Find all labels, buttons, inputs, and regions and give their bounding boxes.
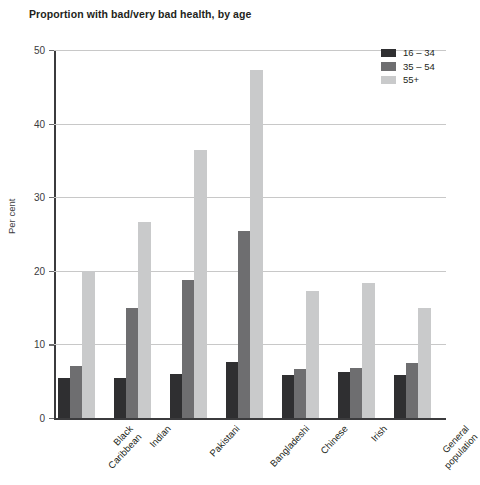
bar [306,291,318,418]
bar-group [278,50,334,418]
plot-area: 01020304050 [54,50,446,418]
y-axis-title: Per cent [6,199,17,234]
legend-item[interactable]: 35 – 54 [381,60,435,74]
y-tick-label: 20 [34,265,45,276]
bar [126,308,138,418]
bar-group [110,50,166,418]
legend-label: 35 – 54 [403,61,435,72]
bar [226,362,238,418]
legend-label: 16 – 34 [403,47,435,58]
legend-swatch-icon [381,76,396,85]
category-label: Pakistani [208,423,243,459]
bar [394,375,406,418]
category-label: Black Caribbean [97,423,144,471]
chart-legend: 16 – 3435 – 5455+ [381,46,435,87]
x-axis-line [54,418,446,420]
bar [406,363,418,418]
y-tick-label: 10 [34,339,45,350]
y-tick-label: 30 [34,192,45,203]
bar [282,375,294,418]
category-label: Irish [369,423,390,444]
bar [338,372,350,418]
category-label: Chinese [318,423,350,456]
y-tick-label: 40 [34,118,45,129]
bar-group [334,50,390,418]
bar-group [222,50,278,418]
chart-title: Proportion with bad/very bad health, by … [29,8,252,20]
y-tick-label: 50 [34,45,45,56]
bar [238,231,250,418]
legend-item[interactable]: 16 – 34 [381,46,435,60]
legend-swatch-icon [381,62,396,71]
category-label: Indian [148,423,174,450]
bar [70,366,82,418]
y-tick-mark [49,418,54,419]
legend-swatch-icon [381,49,396,58]
bar [362,283,374,418]
bar [194,150,206,418]
category-label: General population [433,423,480,471]
legend-item[interactable]: 55+ [381,73,435,87]
bar [182,280,194,418]
bar [294,369,306,418]
bar-group [54,50,110,418]
bar [418,308,430,418]
bar [350,368,362,418]
bar [114,378,126,418]
bar-group [390,50,446,418]
legend-label: 55+ [403,74,419,85]
bar [82,271,94,418]
bar [170,374,182,418]
y-tick-label: 0 [39,413,45,424]
category-label: Bangladeshi [268,423,312,469]
bar [138,222,150,418]
bar [58,378,70,418]
bar [250,70,262,418]
bar-group [166,50,222,418]
